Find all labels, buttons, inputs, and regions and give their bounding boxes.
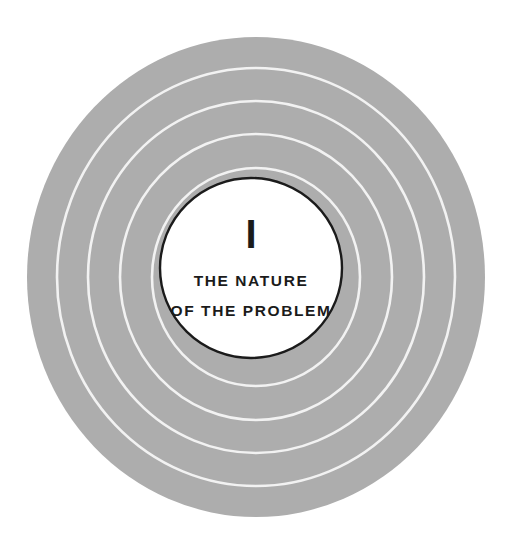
page-root: I THE NATURE OF THE PROBLEM bbox=[0, 0, 512, 551]
concentric-rings-illustration: I THE NATURE OF THE PROBLEM bbox=[0, 0, 512, 551]
chapter-title-line-1: THE NATURE bbox=[194, 272, 309, 289]
center-white-circle bbox=[160, 178, 342, 358]
chapter-opener-figure: I THE NATURE OF THE PROBLEM bbox=[0, 0, 512, 551]
chapter-title-line-2: OF THE PROBLEM bbox=[170, 302, 331, 319]
chapter-numeral: I bbox=[245, 212, 256, 256]
